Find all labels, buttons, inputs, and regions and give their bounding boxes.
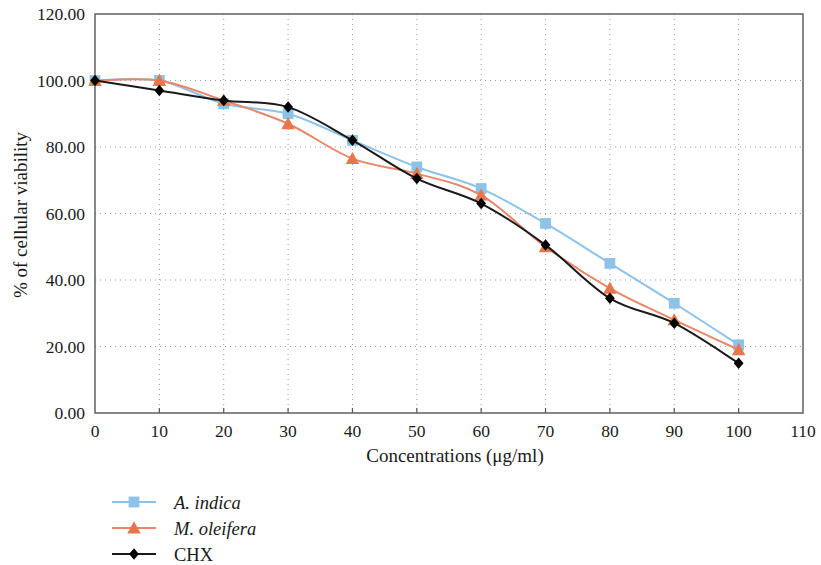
y-tick-label: 60.00: [46, 204, 86, 224]
x-tick-label: 0: [91, 421, 100, 441]
x-tick-label: 20: [215, 421, 233, 441]
x-tick-label: 60: [472, 421, 490, 441]
x-tick-label: 30: [279, 421, 297, 441]
x-tick-label: 90: [666, 421, 684, 441]
data-point-marker-square: [540, 218, 551, 229]
legend-label: CHX: [174, 545, 214, 565]
x-tick-label: 10: [151, 421, 169, 441]
x-tick-label: 80: [601, 421, 619, 441]
y-tick-label: 80.00: [46, 137, 86, 157]
x-tick-label: 110: [790, 421, 816, 441]
data-point-marker-square: [669, 298, 680, 309]
data-point-marker-square: [129, 497, 140, 508]
y-axis-title: % of cellular viability: [10, 131, 31, 298]
data-point-marker-square: [605, 258, 616, 269]
y-tick-label: 40.00: [46, 270, 86, 290]
x-tick-label: 100: [726, 421, 753, 441]
y-tick-label: 120.00: [37, 4, 85, 24]
legend-label: A. indica: [172, 493, 241, 513]
x-tick-label: 70: [537, 421, 555, 441]
y-tick-label: 20.00: [46, 337, 86, 357]
y-tick-label: 100.00: [37, 71, 85, 91]
y-tick-label: 0.00: [54, 403, 85, 423]
x-tick-label: 50: [408, 421, 426, 441]
legend-label: M. oleifera: [173, 519, 256, 539]
x-tick-label: 40: [344, 421, 362, 441]
x-axis-title: Concentrations (μg/ml): [366, 445, 543, 467]
cell-viability-line-chart: 0102030405060708090100110 0.0020.0040.00…: [0, 0, 821, 565]
